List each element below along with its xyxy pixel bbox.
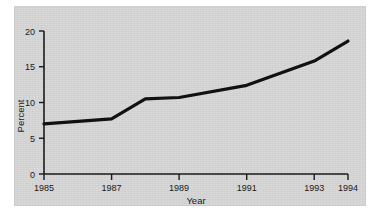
series-line-percent xyxy=(44,41,348,124)
line-chart: 20 15 10 5 0 Percent 1985 1987 1 xyxy=(14,6,366,206)
y-tick-label-20: 20 xyxy=(25,27,35,37)
y-axis-title: Percent xyxy=(15,99,26,132)
x-tick-label-1985: 1985 xyxy=(34,183,54,193)
y-tick-label-0: 0 xyxy=(30,170,35,180)
y-tick-label-5: 5 xyxy=(30,134,35,144)
x-tick-label-1987: 1987 xyxy=(102,183,122,193)
y-tick-label-10: 10 xyxy=(25,98,35,108)
x-tick-label-1991: 1991 xyxy=(237,183,257,193)
x-tick-label-1989: 1989 xyxy=(169,183,189,193)
chart-panel: 20 15 10 5 0 Percent 1985 1987 1 xyxy=(14,6,366,206)
y-tick-label-15: 15 xyxy=(25,62,35,72)
x-axis-ticks xyxy=(44,174,348,180)
x-tick-label-1994: 1994 xyxy=(338,183,358,193)
x-tick-label-1993: 1993 xyxy=(304,183,324,193)
x-axis-title: Year xyxy=(186,195,205,206)
x-axis-tick-labels: 1985 1987 1989 1991 1993 1994 xyxy=(34,183,358,193)
chart-page: 20 15 10 5 0 Percent 1985 1987 1 xyxy=(0,0,380,222)
y-axis-tick-labels: 20 15 10 5 0 xyxy=(25,27,35,180)
